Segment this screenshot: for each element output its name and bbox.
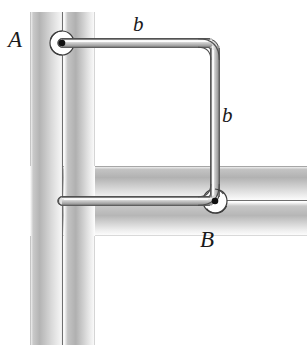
figure-canvas bbox=[0, 0, 307, 352]
label-side-top: b bbox=[133, 14, 144, 35]
pivot-dot-b bbox=[212, 198, 219, 205]
mechanics-figure: A B b b bbox=[0, 0, 307, 352]
label-joint-a: A bbox=[8, 28, 22, 51]
label-side-right: b bbox=[222, 105, 233, 126]
label-joint-b: B bbox=[200, 228, 214, 251]
pivot-dot-a bbox=[59, 40, 66, 47]
